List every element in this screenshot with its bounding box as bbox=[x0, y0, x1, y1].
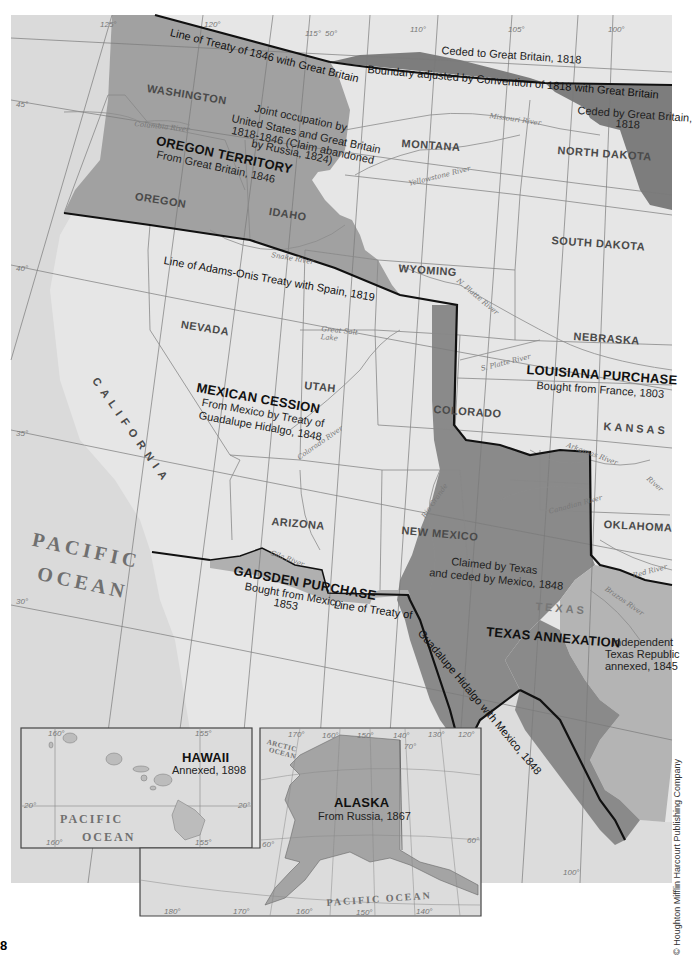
deg-125: 125° bbox=[100, 20, 117, 29]
alaska-deg-160: 160° bbox=[322, 731, 339, 740]
texas-republic-line2: Texas Republic bbox=[605, 648, 680, 660]
hawaii-deg-20-right: 20° bbox=[238, 801, 250, 810]
deg-120: 120° bbox=[204, 20, 221, 29]
hawaii-title: HAWAII bbox=[182, 750, 229, 765]
alaska-deg-140: 140° bbox=[393, 731, 410, 740]
alaska-deg-180: 180° bbox=[164, 907, 181, 916]
hawaii-ocean-label: OCEAN bbox=[82, 830, 135, 845]
alaska-deg-170-bottom: 170° bbox=[233, 907, 250, 916]
deg-40: 40° bbox=[16, 264, 28, 273]
deg-35: 35° bbox=[16, 429, 28, 438]
hawaii-deg-160-bottom: 160° bbox=[46, 838, 63, 847]
hawaii-deg-160-top: 160° bbox=[48, 729, 65, 738]
hawaii-subtitle: Annexed, 1898 bbox=[172, 764, 246, 776]
alaska-deg-60-left: 60° bbox=[262, 840, 274, 849]
texas-republic-line3: annexed, 1845 bbox=[605, 660, 678, 672]
deg-110: 110° bbox=[410, 25, 426, 34]
deg-100: 100° bbox=[608, 25, 625, 34]
alaska-deg-120: 120° bbox=[458, 730, 475, 739]
alaska-title: ALASKA bbox=[334, 795, 389, 810]
deg-30: 30° bbox=[16, 597, 28, 606]
alaska-deg-60-right: 60° bbox=[467, 836, 479, 845]
publisher-credit: © Houghton Mifflin Harcourt Publishing C… bbox=[672, 759, 682, 955]
ceded-by-gb-label-2: 1818 bbox=[615, 117, 640, 131]
deg-105: 105° bbox=[508, 25, 525, 34]
alaska-subtitle: From Russia, 1867 bbox=[318, 810, 411, 822]
hawaii-pacific-label: PACIFIC bbox=[60, 812, 123, 827]
deg-115: 115° bbox=[305, 29, 321, 38]
page-number: 8 bbox=[0, 938, 7, 953]
alaska-deg-150: 150° bbox=[357, 731, 374, 740]
texas-republic-line1: Independent bbox=[612, 636, 673, 648]
alaska-deg-150-bottom: 150° bbox=[356, 908, 373, 917]
alaska-deg-170: 170° bbox=[288, 730, 305, 739]
alaska-deg-140-bottom: 140° bbox=[416, 907, 433, 916]
hawaii-deg-20-left: 20° bbox=[24, 801, 36, 810]
alaska-deg-160-bottom: 160° bbox=[296, 907, 313, 916]
hawaii-deg-155-bottom: 155° bbox=[195, 838, 212, 847]
alaska-deg-130: 130° bbox=[428, 730, 445, 739]
hawaii-deg-155-top: 155° bbox=[195, 729, 212, 738]
hawaii-inset bbox=[21, 728, 252, 848]
deg-50: 50° bbox=[325, 29, 337, 38]
alaska-deg-70: 70° bbox=[404, 742, 416, 751]
deg-45: 45° bbox=[16, 100, 28, 109]
deg-100-south: 100° bbox=[563, 868, 580, 877]
